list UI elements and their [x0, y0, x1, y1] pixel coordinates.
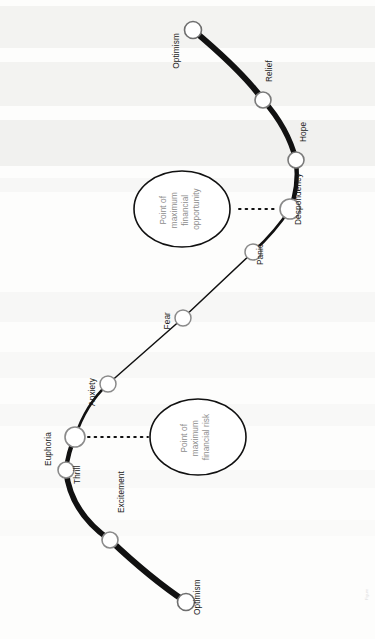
- callout-opportunity: Point of maximum financial opportunity: [134, 171, 278, 247]
- node-marker-euphoria[interactable]: [65, 427, 85, 447]
- callout-line: financial: [181, 195, 190, 226]
- node-marker-relief[interactable]: [255, 92, 271, 108]
- callout-line: maximum: [191, 420, 200, 456]
- callout-line: Point of: [159, 195, 168, 224]
- node-label-despondency: Despondency: [294, 173, 303, 225]
- figure-canvas: Point of maximum financial opportunity P…: [0, 0, 375, 639]
- node-label-relief: Relief: [265, 60, 274, 82]
- market-emotions-curve: Point of maximum financial opportunity P…: [0, 0, 375, 639]
- node-marker-anxiety[interactable]: [100, 376, 116, 392]
- callout-line: financial risk: [202, 413, 211, 460]
- callout-risk: Point of maximum financial risk: [88, 399, 246, 475]
- node-label-thrill: Thrill: [73, 465, 82, 484]
- emotion-node-markers: [58, 22, 304, 611]
- node-marker-thrill[interactable]: [58, 462, 74, 478]
- node-label-anxiety: Anxiety: [88, 377, 97, 406]
- edge-caption: Figure: [364, 588, 369, 600]
- node-label-excitement: Excitement: [117, 470, 126, 513]
- node-marker-fear[interactable]: [175, 310, 191, 326]
- node-label-hope: Hope: [299, 122, 308, 142]
- node-label-optimism-start: Optimism: [172, 33, 181, 69]
- node-marker-hope[interactable]: [288, 152, 304, 168]
- node-label-fear: Fear: [163, 312, 172, 330]
- node-marker-optimism-end[interactable]: [178, 594, 195, 611]
- node-label-euphoria: Euphoria: [44, 432, 53, 466]
- node-marker-optimism-start[interactable]: [185, 22, 202, 39]
- callout-line: opportunity: [192, 187, 201, 229]
- node-marker-excitement[interactable]: [102, 532, 118, 548]
- callout-line: maximum: [170, 192, 179, 228]
- callout-line: Point of: [180, 423, 189, 452]
- node-label-panic: Panic: [256, 244, 265, 265]
- node-label-optimism-end: Optimism: [193, 579, 202, 615]
